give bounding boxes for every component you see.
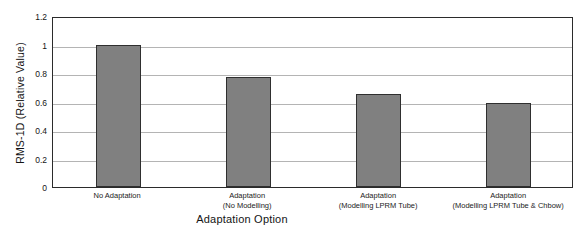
- x-category-label-line1: No Adaptation: [94, 191, 141, 200]
- x-category-label: Adaptation(Modelling LPRM Tube & Chbow): [413, 191, 584, 211]
- y-tick-label: 1.2: [22, 13, 47, 22]
- y-tick-label: 1: [22, 42, 47, 51]
- y-tick-label: 0.2: [22, 156, 47, 165]
- x-category-label-line1: Adaptation: [360, 191, 396, 200]
- bar: [226, 77, 271, 187]
- bar: [486, 103, 531, 187]
- y-axis-tick-labels: 00.20.40.60.811.2: [22, 17, 47, 188]
- y-tick-label: 0.4: [22, 127, 47, 136]
- bars-group: [53, 18, 572, 187]
- bar: [356, 94, 401, 187]
- x-category-label-line2: (Modelling LPRM Tube & Chbow): [413, 201, 584, 211]
- plot-area: [52, 17, 573, 188]
- bar: [96, 45, 141, 188]
- x-category-label-line1: Adaptation: [490, 191, 526, 200]
- y-tick-label: 0.6: [22, 99, 47, 108]
- x-axis-title: Adaptation Option: [52, 213, 432, 225]
- bar-chart-figure: RMS-1D (Relative Value) 00.20.40.60.811.…: [0, 0, 584, 235]
- x-category-label-line1: Adaptation: [229, 191, 265, 200]
- y-tick-label: 0.8: [22, 70, 47, 79]
